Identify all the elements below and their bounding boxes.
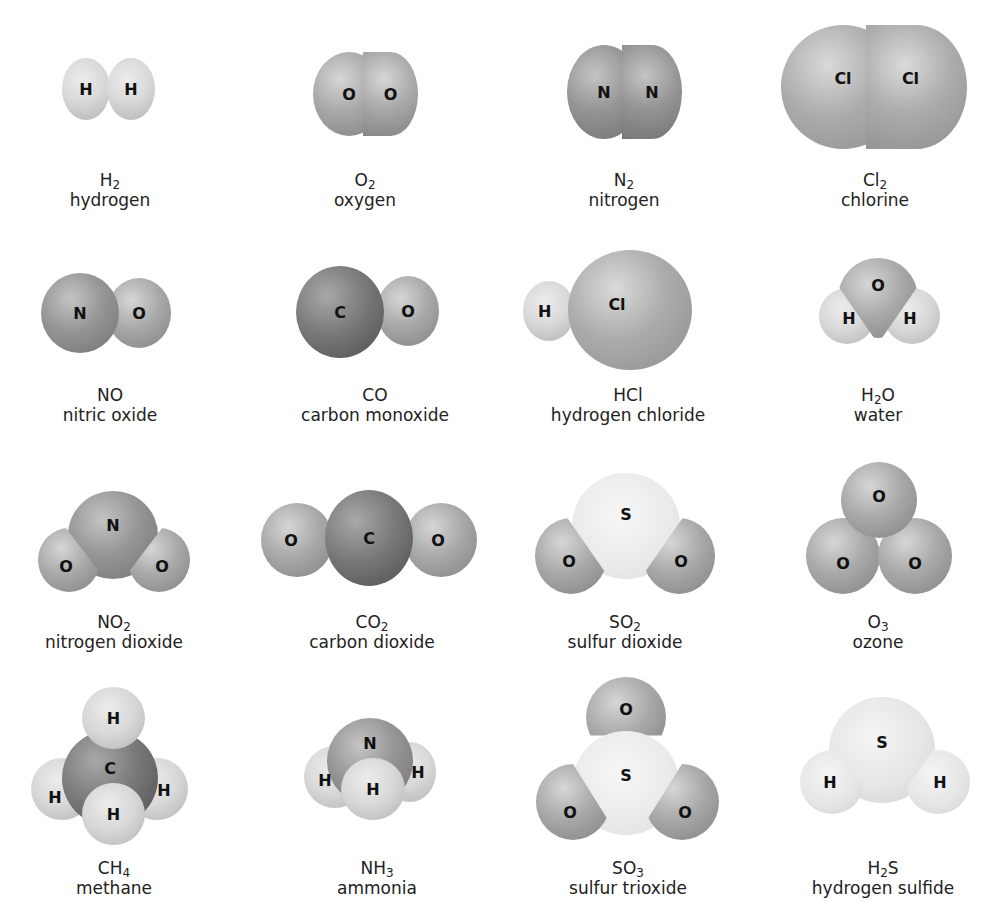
molecule-formula: NO2 [4, 612, 224, 632]
molecule-name: carbon monoxide [265, 405, 485, 425]
molecule-formula: O3 [768, 612, 988, 632]
molecule-formula: HCl [518, 385, 738, 405]
molecule-formula: NH3 [267, 858, 487, 878]
atom-oxygen: O [841, 462, 917, 538]
molecule-formula: CO [265, 385, 485, 405]
molecule-formula: N2 [514, 170, 734, 190]
molecule-label: SO2 sulfur dioxide [515, 612, 735, 652]
molecule-name: methane [4, 878, 224, 898]
molecule-label: NO2 nitrogen dioxide [4, 612, 224, 652]
molecule-formula: H2S [773, 858, 993, 878]
molecule-name: carbon dioxide [262, 632, 482, 652]
molecule-label: CO carbon monoxide [265, 385, 485, 425]
molecule-name: nitric oxide [0, 405, 220, 425]
atom-chlorine: Cl [568, 250, 692, 370]
molecule-name: sulfur trioxide [518, 878, 738, 898]
molecule-label: O3 ozone [768, 612, 988, 652]
molecule-label: H2S hydrogen sulfide [773, 858, 993, 898]
molecule-name: water [768, 405, 988, 425]
molecule-name: oxygen [255, 190, 475, 210]
molecule-name: ammonia [267, 878, 487, 898]
atom-hydrogen: H [82, 783, 145, 845]
molecule-formula: H2O [768, 385, 988, 405]
atom-carbon: C [296, 266, 384, 358]
molecule-name: nitrogen dioxide [4, 632, 224, 652]
atom-oxygen: O [377, 276, 439, 346]
molecule-formula: CH4 [4, 858, 224, 878]
molecule-name: sulfur dioxide [515, 632, 735, 652]
molecule-label: O2 oxygen [255, 170, 475, 210]
molecule-label: NO nitric oxide [0, 385, 220, 425]
molecule-formula: NO [0, 385, 220, 405]
molecule-formula: SO2 [515, 612, 735, 632]
molecule-label: SO3 sulfur trioxide [518, 858, 738, 898]
molecule-label: CO2 carbon dioxide [262, 612, 482, 652]
atom-oxygen: O [261, 503, 333, 577]
atom-nitrogen: N [41, 273, 119, 353]
atom-oxygen: O [363, 52, 418, 136]
molecule-formula: SO3 [518, 858, 738, 878]
molecule-label: H2 hydrogen [0, 170, 220, 210]
molecule-label: CH4 methane [4, 858, 224, 898]
molecule-name: ozone [768, 632, 988, 652]
molecule-formula: Cl2 [765, 170, 985, 190]
atom-carbon: C [325, 490, 413, 586]
atom-oxygen: O [405, 503, 477, 577]
molecule-name: hydrogen chloride [518, 405, 738, 425]
molecule-label: HCl hydrogen chloride [518, 385, 738, 425]
molecule-label: NH3 ammonia [267, 858, 487, 898]
molecule-label: H2O water [768, 385, 988, 425]
atom-hydrogen: H [107, 58, 155, 120]
molecule-formula: H2 [0, 170, 220, 190]
molecule-formula: CO2 [262, 612, 482, 632]
molecule-label: Cl2 chlorine [765, 170, 985, 210]
molecule-formula: O2 [255, 170, 475, 190]
molecule-name: chlorine [765, 190, 985, 210]
atom-hydrogen: H [62, 58, 110, 120]
molecule-name: hydrogen sulfide [773, 878, 993, 898]
molecule-name: hydrogen [0, 190, 220, 210]
molecule-name: nitrogen [514, 190, 734, 210]
atom-chlorine: Cl [866, 25, 967, 149]
molecule-label: N2 nitrogen [514, 170, 734, 210]
atom-hydrogen: H [341, 758, 405, 820]
atom-nitrogen: N [622, 45, 682, 139]
atom-hydrogen: H [82, 687, 145, 749]
